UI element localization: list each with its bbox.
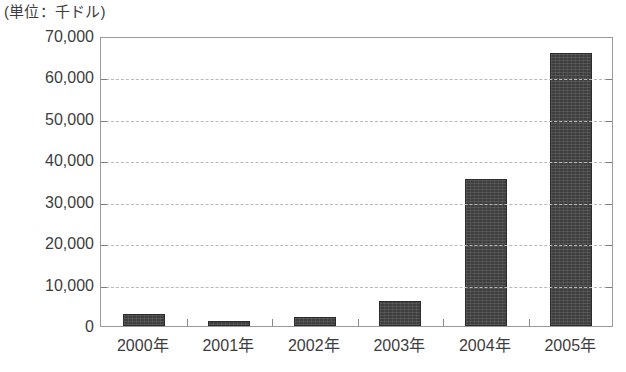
x-axis-tick-label: 2000年 xyxy=(100,336,186,356)
y-axis-tick-mark xyxy=(606,204,612,205)
x-axis-tick-label: 2001年 xyxy=(186,336,272,356)
gridline xyxy=(101,121,612,122)
y-axis-tick-labels: 70,00060,00050,00040,00030,00020,00010,0… xyxy=(0,37,94,327)
y-axis-tick-mark xyxy=(101,245,107,246)
bar xyxy=(465,179,507,326)
y-axis-tick-mark xyxy=(101,79,107,80)
y-axis-tick-mark xyxy=(606,121,612,122)
x-axis-tick-mark xyxy=(529,319,530,326)
unit-caption: (単位：千ドル) xyxy=(4,2,106,22)
y-axis-tick-mark xyxy=(606,245,612,246)
y-axis-tick-mark xyxy=(606,287,612,288)
x-axis-tick-mark xyxy=(272,319,273,326)
bar-chart-figure: (単位：千ドル) 70,00060,00050,00040,00030,0002… xyxy=(0,0,626,372)
bar xyxy=(208,321,250,326)
y-axis-tick-label: 70,000 xyxy=(0,29,94,45)
y-axis-tick-label: 50,000 xyxy=(0,112,94,128)
y-axis-tick-label: 0 xyxy=(0,319,94,335)
x-axis-tick-mark xyxy=(443,319,444,326)
y-axis-tick-label: 30,000 xyxy=(0,195,94,211)
x-axis-tick-mark xyxy=(358,319,359,326)
y-axis-tick-label: 60,000 xyxy=(0,70,94,86)
x-axis-tick-label: 2005年 xyxy=(528,336,614,356)
x-axis-tick-labels: 2000年2001年2002年2003年2004年2005年 xyxy=(100,336,613,366)
y-axis-tick-mark xyxy=(101,162,107,163)
y-axis-tick-label: 10,000 xyxy=(0,278,94,294)
y-axis-tick-label: 40,000 xyxy=(0,153,94,169)
y-axis-tick-mark xyxy=(606,79,612,80)
y-axis-tick-mark xyxy=(606,162,612,163)
y-axis-tick-label: 20,000 xyxy=(0,236,94,252)
gridline xyxy=(101,245,612,246)
gridline xyxy=(101,79,612,80)
x-axis-tick-mark xyxy=(187,319,188,326)
bar xyxy=(123,314,165,326)
gridline xyxy=(101,204,612,205)
y-axis-tick-mark xyxy=(101,287,107,288)
bar xyxy=(550,53,592,326)
bar xyxy=(294,317,336,326)
x-axis-tick-label: 2003年 xyxy=(357,336,443,356)
bar xyxy=(379,301,421,326)
bars-layer xyxy=(101,38,612,326)
y-axis-tick-mark xyxy=(101,204,107,205)
gridline xyxy=(101,162,612,163)
x-axis-tick-label: 2002年 xyxy=(271,336,357,356)
gridline xyxy=(101,287,612,288)
x-axis-tick-label: 2004年 xyxy=(442,336,528,356)
plot-area xyxy=(100,37,613,327)
y-axis-tick-mark xyxy=(101,121,107,122)
